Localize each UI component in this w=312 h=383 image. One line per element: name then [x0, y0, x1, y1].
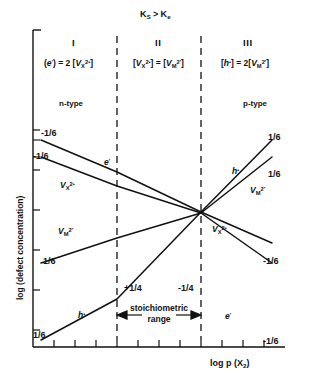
brouwer-diagram-figure: KS>Ke I II III (e′) = 2 [VX2•] [VX2•] = …: [0, 0, 312, 383]
region-I-equation: (e′) = 2 [VX2•]: [44, 59, 93, 69]
title-ke: Ke: [160, 9, 170, 19]
slope-label-right-top-2: 1/6: [268, 170, 281, 179]
title-relation: >: [153, 9, 158, 19]
species-label-electron-right: e′: [225, 312, 231, 321]
x-axis-ticks: [54, 340, 264, 347]
slope-label-right-top-1: 1/6: [268, 133, 281, 142]
stoichiometric-range-label: stoichiometric range: [128, 303, 190, 324]
region-dividers: [117, 36, 201, 340]
stoichiometric-range-line1: stoichiometric: [130, 303, 188, 313]
slope-label-right-bot-2: -1/6: [263, 337, 279, 346]
species-label-vacancy-X-right: VX2•: [212, 225, 227, 235]
carrier-type-p: p-type: [243, 100, 267, 108]
slope-label-left-bot-2: 1/6: [33, 331, 46, 340]
slope-label-left-top-2: -1/6: [33, 152, 49, 161]
curve-electron: [41, 140, 272, 243]
slope-label-mid-minus: -1/4: [178, 284, 194, 293]
species-label-hole-left: h•: [78, 311, 85, 320]
stoichiometric-range-line2: range: [147, 314, 170, 324]
region-numeral-I: I: [72, 38, 75, 48]
y-axis-label: log (defect concentration): [16, 196, 25, 300]
x-axis-label: log p (X2): [210, 359, 249, 369]
region-numeral-II: II: [155, 38, 161, 48]
species-label-vacancy-M-left: VM2′: [58, 227, 73, 237]
species-label-hole-right: h•: [232, 167, 239, 176]
slope-label-mid-plus: +1/4: [124, 284, 142, 293]
region-numeral-III: III: [243, 38, 253, 48]
region-III-equation: [h•] = 2[VM2′]: [221, 59, 269, 69]
title-ks: KS: [140, 9, 151, 19]
carrier-type-n: n-type: [59, 100, 83, 108]
species-label-vacancy-M-right: VM2′: [250, 186, 265, 196]
slope-label-right-bot-1: -1/6: [263, 257, 279, 266]
slope-label-left-bot-1: 1/6: [43, 257, 56, 266]
species-label-vacancy-X-left: VX2•: [60, 181, 75, 191]
region-II-equation: [VX2•] = [VM2′]: [133, 59, 184, 69]
species-label-electron-left: e′: [104, 158, 110, 167]
slope-label-left-top-1: -1/6: [41, 129, 57, 138]
chart-title: KS>Ke: [140, 10, 171, 20]
